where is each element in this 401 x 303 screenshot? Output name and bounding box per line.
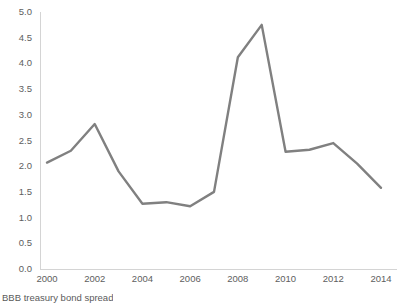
x-axis-tick-label: 2014 xyxy=(370,273,391,285)
x-axis-tick-label: 2008 xyxy=(227,273,248,285)
line-chart: 0.00.51.01.52.02.53.03.54.04.55.0 200020… xyxy=(0,0,401,303)
chart-caption: BBB treasury bond spread xyxy=(2,292,113,303)
series-line-bbb-treasury-bond-spread xyxy=(47,25,381,206)
x-axis-tick-label: 2012 xyxy=(323,273,344,285)
x-axis-tick-label: 2002 xyxy=(84,273,105,285)
x-axis-tick-label: 2010 xyxy=(275,273,296,285)
series-layer xyxy=(0,0,401,303)
x-axis-tick-label: 2006 xyxy=(180,273,201,285)
x-axis-tick-label: 2000 xyxy=(36,273,57,285)
x-axis-tick-labels: 20002002200420062008201020122014 xyxy=(0,273,401,287)
x-axis-tick-label: 2004 xyxy=(132,273,153,285)
